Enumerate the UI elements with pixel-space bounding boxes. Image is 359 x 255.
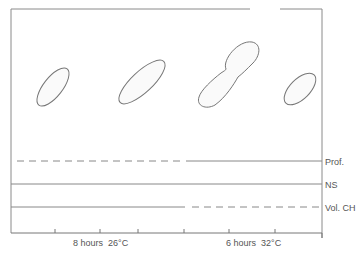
track-label-prof: Prof. xyxy=(325,157,344,167)
cell-cycle-diagram: Prof. NS Vol. CH 8 hours 26°C 6 hours 32… xyxy=(0,0,359,255)
track-label-vol-ch: Vol. CH xyxy=(325,203,356,213)
cell-2 xyxy=(113,54,171,110)
cell-4 xyxy=(279,68,321,110)
frame xyxy=(11,9,322,238)
axis-label-26c: 8 hours 26°C xyxy=(73,238,129,248)
cells xyxy=(31,42,321,111)
cell-3-dividing xyxy=(198,42,258,107)
track-label-ns: NS xyxy=(325,180,338,190)
cell-1 xyxy=(31,63,74,111)
axis-label-32c: 6 hours 32°C xyxy=(226,238,282,248)
time-axis xyxy=(11,229,322,238)
